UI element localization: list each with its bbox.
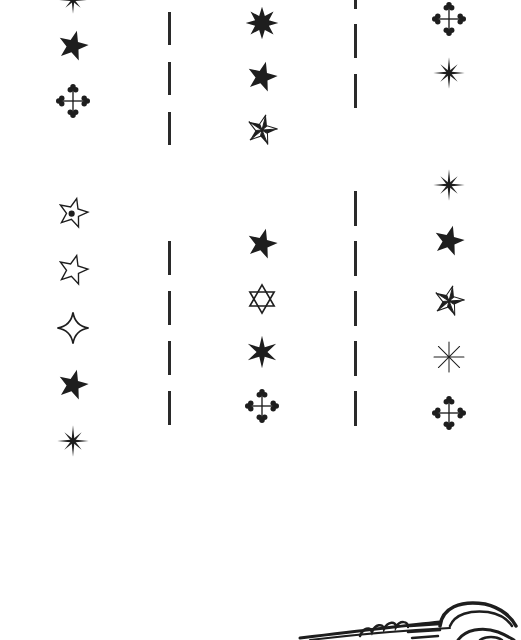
star-filled-icon <box>245 227 279 261</box>
star-filled-icon <box>432 224 466 258</box>
trefoil-cross-icon <box>432 2 466 36</box>
divider-left-dash <box>168 291 171 325</box>
trefoil-cross-icon <box>245 389 279 423</box>
divider-left-dash <box>168 112 171 145</box>
divider-right-dash <box>354 391 357 426</box>
divider-left-dash <box>168 341 171 375</box>
divider-left-dash <box>168 12 171 45</box>
asterisk-8-icon <box>432 168 466 202</box>
divider-right-dash <box>354 341 357 376</box>
asterisk-8-icon <box>58 0 88 15</box>
divider-right-dash <box>354 24 357 58</box>
star-filled-icon <box>56 29 90 63</box>
trefoil-cross-icon <box>56 84 90 118</box>
asterisk-8-icon <box>432 56 466 90</box>
four-point-outline-icon <box>56 311 90 345</box>
star-filled-icon <box>245 60 279 94</box>
asterisk-outline-icon <box>432 340 466 374</box>
star-8-filled-icon <box>245 6 279 40</box>
divider-right-dash <box>354 241 357 276</box>
divider-left-dash <box>168 62 171 95</box>
star-6-filled-icon <box>245 335 279 369</box>
nautical-star-icon <box>432 284 466 318</box>
divider-right-dash <box>354 74 357 108</box>
nautical-star-icon <box>245 113 279 147</box>
star-outline-dot-icon <box>56 196 90 230</box>
hexagram-outline-icon <box>246 283 278 315</box>
divider-right-dash <box>354 191 357 226</box>
divider-right-dash <box>354 0 357 9</box>
trefoil-cross-icon <box>432 396 466 430</box>
divider-left-dash <box>168 241 171 275</box>
divider-right-dash <box>354 291 357 326</box>
bird-drawing-partial <box>290 596 521 640</box>
asterisk-8-icon <box>56 424 90 458</box>
star-filled-icon <box>56 368 90 402</box>
star-outline-icon <box>56 253 90 287</box>
divider-left-dash <box>168 391 171 425</box>
